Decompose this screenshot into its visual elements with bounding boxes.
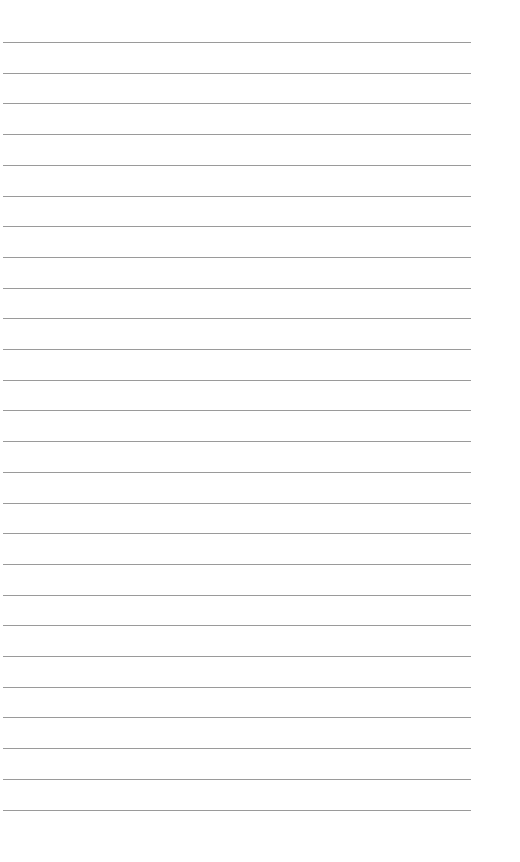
ruled-line [3, 779, 471, 780]
ruled-line [3, 103, 471, 104]
ruled-line [3, 349, 471, 350]
ruled-line [3, 134, 471, 135]
ruled-line [3, 165, 471, 166]
ruled-line [3, 533, 471, 534]
ruled-line [3, 257, 471, 258]
lined-paper-page [0, 0, 520, 862]
ruled-line [3, 717, 471, 718]
ruled-line [3, 441, 471, 442]
ruled-line [3, 318, 471, 319]
ruled-line [3, 810, 471, 811]
ruled-line [3, 226, 471, 227]
ruled-line [3, 42, 471, 43]
ruled-line [3, 288, 471, 289]
ruled-line [3, 595, 471, 596]
ruled-line [3, 656, 471, 657]
ruled-line [3, 748, 471, 749]
ruled-line [3, 410, 471, 411]
ruled-line [3, 380, 471, 381]
ruled-line [3, 196, 471, 197]
ruled-line [3, 472, 471, 473]
ruled-line [3, 564, 471, 565]
ruled-line [3, 503, 471, 504]
ruled-line [3, 687, 471, 688]
ruled-line [3, 625, 471, 626]
ruled-line [3, 73, 471, 74]
